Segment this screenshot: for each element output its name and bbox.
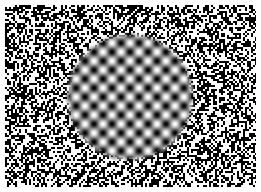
- noise-and-grating-figure: [0, 0, 261, 192]
- stimulus-stage: [0, 0, 261, 192]
